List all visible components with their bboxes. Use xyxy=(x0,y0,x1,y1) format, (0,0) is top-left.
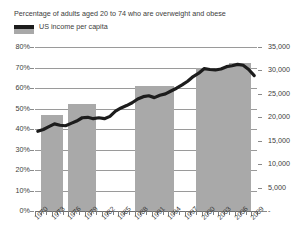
y-axis-left-tick-mark xyxy=(30,129,34,130)
income-line-series xyxy=(35,47,257,211)
y-axis-right-tick-label: 15,000 xyxy=(268,137,290,145)
y-axis-left-tick-mark xyxy=(30,150,34,151)
y-axis-left-tick-label: 20% xyxy=(16,166,30,174)
y-axis-right-tick-mark xyxy=(258,117,262,118)
legend-label-income: US income per capita xyxy=(39,22,108,31)
y-axis-right-tick-label: 25,000 xyxy=(268,90,290,98)
plot-area xyxy=(35,47,257,211)
y-axis-right-tick-label: 35,000 xyxy=(268,43,290,51)
y-axis-left-tick-label: 10% xyxy=(16,187,30,195)
y-axis-right-tick-mark xyxy=(258,94,262,95)
y-axis-right: 35,00030,00025,00020,00015,00010,0005,00… xyxy=(262,0,302,239)
y-axis-left-tick-mark xyxy=(30,170,34,171)
legend-item-overweight: Percentage of adults aged 20 to 74 who a… xyxy=(14,8,300,19)
y-axis-left-tick-mark xyxy=(30,68,34,69)
y-axis-right-tick-mark xyxy=(258,164,262,165)
y-axis-left-tick-mark xyxy=(30,211,34,212)
y-axis-right-tick-mark xyxy=(258,211,262,212)
y-axis-left-tick-mark xyxy=(30,47,34,48)
y-axis-left-tick-mark xyxy=(30,88,34,89)
y-axis-left-tick-label: 70% xyxy=(16,64,30,72)
y-axis-left: 80%70%60%50%40%30%20%10%0% xyxy=(0,0,34,239)
legend-label-overweight: Percentage of adults aged 20 to 74 who a… xyxy=(14,9,226,18)
y-axis-right-tick-mark xyxy=(258,47,262,48)
y-axis-left-tick-label: 40% xyxy=(16,125,30,133)
y-axis-right-tick-mark xyxy=(258,141,262,142)
income-line-path xyxy=(38,64,254,131)
x-axis-labels: 1970197319761979198219851988199119941997… xyxy=(0,214,302,239)
y-axis-left-tick-label: 60% xyxy=(16,84,30,92)
y-axis-right-tick-mark xyxy=(258,188,262,189)
y-axis-right-tick-label: 10,000 xyxy=(268,160,290,168)
chart-legend: Percentage of adults aged 20 to 74 who a… xyxy=(14,8,300,34)
chart-container: Percentage of adults aged 20 to 74 who a… xyxy=(0,0,302,239)
y-axis-left-tick-mark xyxy=(30,191,34,192)
y-axis-left-tick-label: 50% xyxy=(16,105,30,113)
y-axis-right-tick-label: 20,000 xyxy=(268,113,290,121)
y-axis-left-tick-label: 80% xyxy=(16,43,30,51)
y-axis-left-tick-mark xyxy=(30,109,34,110)
legend-item-income: US income per capita xyxy=(14,21,300,32)
y-axis-right-tick-label: 5,000 xyxy=(268,184,286,192)
y-axis-right-tick-label: 30,000 xyxy=(268,66,290,74)
y-axis-left-tick-label: 30% xyxy=(16,146,30,154)
y-axis-right-tick-mark xyxy=(258,70,262,71)
